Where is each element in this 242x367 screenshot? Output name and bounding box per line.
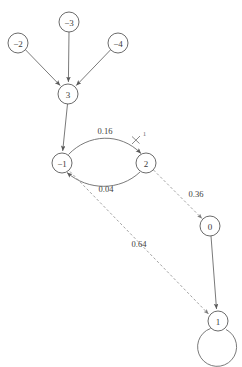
node-3-label: 3 [66,90,71,100]
node-minus3[interactable]: −3 [59,12,79,32]
edge-1-self-loop [198,329,237,367]
edge-minus3-to-3 [68,32,69,82]
edge-label-0-04: 0.04 [99,184,115,194]
edge-minus4-to-3 [76,50,110,86]
tick-annotation: 1 [132,130,147,145]
edge-label-0-36: 0.36 [189,189,204,199]
node-minus4-label: −4 [113,39,123,49]
tick-annotation-label: 1 [143,130,147,138]
edge-label-0-64: 0.64 [132,239,148,249]
edge-minus1-to-2 [69,138,142,154]
edge-minus2-to-3 [26,50,61,86]
node-2-label: 2 [144,159,149,169]
node-minus2-label: −2 [13,39,23,49]
node-minus2[interactable]: −2 [8,33,28,53]
node-0[interactable]: 0 [200,216,220,236]
edge-0-to-1 [211,236,217,309]
graph-svg: 1 0.16 0.04 0.36 0.64 −2 −3 −4 3 −1 [0,0,242,367]
diagram-canvas: 1 0.16 0.04 0.36 0.64 −2 −3 −4 3 −1 [0,0,242,367]
node-minus3-label: −3 [64,18,74,28]
node-minus1-label: −1 [57,159,67,169]
node-1-label: 1 [216,317,221,327]
node-minus1[interactable]: −1 [52,153,72,173]
edge-3-to-minus1 [63,104,68,151]
node-1[interactable]: 1 [208,311,228,331]
node-3[interactable]: 3 [58,84,78,104]
edge-label-0-16: 0.16 [98,126,113,136]
node-minus4[interactable]: −4 [108,33,128,53]
node-2[interactable]: 2 [136,153,156,173]
node-0-label: 0 [208,222,213,232]
